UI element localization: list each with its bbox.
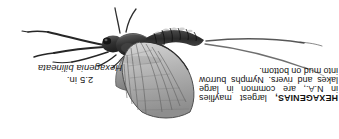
description-word: lakes: [317, 75, 338, 84]
description-word: in: [331, 84, 338, 93]
description-word: mayflies: [199, 93, 232, 102]
taxon-heading: HEXAGENIAS,: [275, 93, 338, 102]
description-word: common: [241, 84, 275, 93]
description-word: in: [227, 84, 234, 93]
description-line-3: lakes and rivers. Nymphs burrow: [199, 75, 338, 84]
description-word: N.A.,: [304, 84, 324, 93]
scientific-name: Hexagenia bilineata: [14, 63, 146, 74]
antennae: [115, 8, 136, 33]
size-label: 2.5 in.: [14, 75, 146, 86]
species-label: 2.5 in. Hexagenia bilineata: [14, 63, 146, 85]
description-word: into mud on bottom.: [259, 66, 338, 75]
tail-filament-upper: [206, 39, 322, 46]
description-line-1: HEXAGENIAS, largest mayflies: [199, 93, 338, 102]
description-word: largest: [240, 93, 267, 102]
description-line-4: into mud on bottom.: [199, 66, 338, 75]
description-block: HEXAGENIAS, largest mayflies in N.A., ar…: [199, 66, 338, 102]
description-line-2: in N.A., are common in large: [199, 84, 338, 93]
description-word: rivers.: [268, 75, 292, 84]
description-word: burrow: [199, 75, 226, 84]
field-guide-page: 2.5 in. Hexagenia bilineata HEXAGENIAS, …: [0, 0, 339, 139]
description-word: are: [283, 84, 296, 93]
description-word: and: [298, 75, 313, 84]
description-word: large: [199, 84, 219, 93]
description-word: Nymphs: [231, 75, 264, 84]
